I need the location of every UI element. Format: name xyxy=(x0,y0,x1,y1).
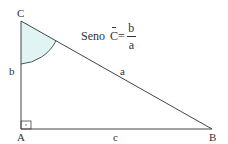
vertex-label-b: B xyxy=(209,132,216,143)
formula-numerator: b xyxy=(128,22,134,34)
formula-angle: C xyxy=(110,29,118,44)
fraction-bar xyxy=(127,36,136,37)
formula-equals: = xyxy=(118,29,125,44)
vertex-label-c: C xyxy=(17,8,24,19)
formula-fraction: b a xyxy=(127,22,136,51)
sine-formula: Seno C = b a xyxy=(81,22,136,51)
right-angle-dot xyxy=(25,124,26,125)
side-label-a: a xyxy=(120,66,125,77)
side-label-c: c xyxy=(113,132,118,143)
side-label-b: b xyxy=(9,66,15,77)
angle-c-fill xyxy=(21,21,56,64)
formula-prefix: Seno xyxy=(81,29,105,44)
formula-denominator: a xyxy=(129,39,134,51)
vertex-label-a: A xyxy=(17,132,25,143)
